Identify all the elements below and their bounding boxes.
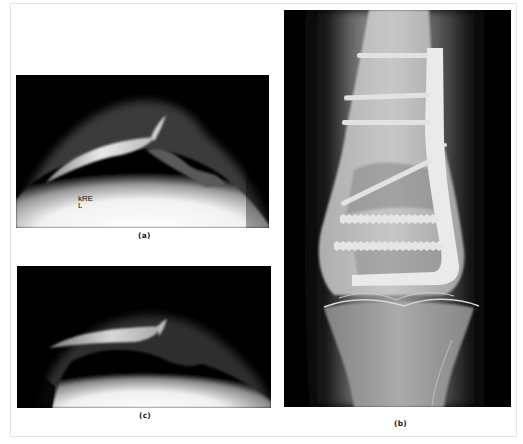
caption-panel-a: (a) bbox=[138, 231, 151, 240]
marker-line-2: L bbox=[78, 202, 93, 209]
xray-panel-a bbox=[16, 75, 269, 228]
caption-panel-c: (c) bbox=[139, 411, 151, 420]
xray-image-a bbox=[16, 75, 269, 228]
xray-panel-b bbox=[284, 10, 511, 407]
xray-image-b bbox=[284, 10, 511, 407]
xray-panel-c bbox=[17, 266, 271, 408]
xray-image-c bbox=[17, 266, 271, 408]
caption-panel-b: (b) bbox=[394, 419, 407, 428]
xray-side-marker: kRE L bbox=[78, 195, 93, 209]
